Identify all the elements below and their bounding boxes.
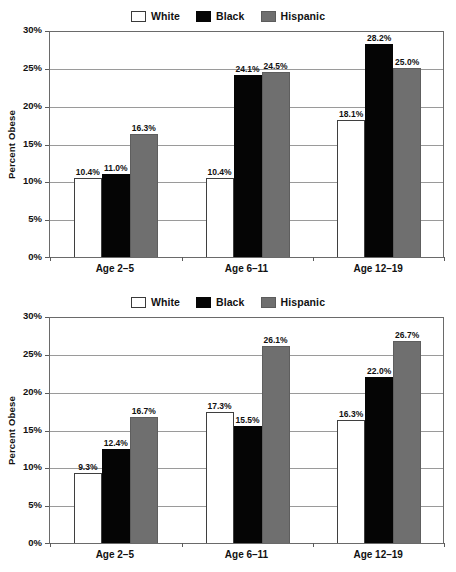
y-axis-tick-mark bbox=[45, 220, 49, 221]
legend-swatch-icon bbox=[196, 297, 211, 308]
bar: 25.0% bbox=[393, 68, 421, 257]
y-axis-tick-mark bbox=[45, 69, 49, 70]
bar: 26.1% bbox=[262, 346, 290, 543]
plot-area: 9.3%12.4%16.7%17.3%15.5%26.1%16.3%22.0%2… bbox=[49, 317, 444, 544]
bar-value-label: 10.4% bbox=[76, 168, 100, 177]
y-axis-tick-mark bbox=[45, 317, 49, 318]
legend-label: Black bbox=[216, 297, 245, 308]
y-axis-tick-label: 30% bbox=[2, 25, 42, 35]
x-axis-category-label: Age 12–19 bbox=[312, 263, 444, 274]
y-axis-tick-label: 0% bbox=[2, 252, 42, 262]
bar-value-label: 25.0% bbox=[395, 58, 419, 67]
y-axis-tick-mark bbox=[45, 543, 49, 544]
gridline bbox=[50, 355, 443, 356]
x-axis-tick-mark bbox=[50, 543, 51, 547]
y-axis-tick-mark bbox=[45, 506, 49, 507]
legend-item-white[interactable]: White bbox=[131, 11, 180, 22]
bar: 10.4% bbox=[74, 178, 102, 257]
bar: 22.0% bbox=[365, 377, 393, 543]
legend-label: White bbox=[151, 297, 180, 308]
bar-value-label: 10.4% bbox=[207, 168, 231, 177]
bar-value-label: 16.3% bbox=[339, 410, 363, 419]
bar: 16.3% bbox=[337, 420, 365, 543]
y-axis-tick-mark bbox=[45, 355, 49, 356]
legend-swatch-icon bbox=[261, 11, 276, 22]
bar-value-label: 24.5% bbox=[263, 62, 287, 71]
legend-swatch-icon bbox=[261, 297, 276, 308]
x-axis-category-label: Age 6–11 bbox=[181, 549, 313, 560]
y-axis-tick-label: 20% bbox=[2, 101, 42, 111]
chart-legend: WhiteBlackHispanic bbox=[0, 9, 456, 23]
legend-label: Hispanic bbox=[281, 297, 326, 308]
bar-value-label: 26.7% bbox=[395, 331, 419, 340]
legend-item-hispanic[interactable]: Hispanic bbox=[261, 11, 326, 22]
chart-top: WhiteBlackHispanicPercent Obese10.4%11.0… bbox=[0, 0, 456, 286]
x-axis-tick-mark bbox=[313, 543, 314, 547]
chart-legend: WhiteBlackHispanic bbox=[0, 295, 456, 309]
bar: 17.3% bbox=[206, 412, 234, 543]
y-axis-tick-label: 5% bbox=[2, 500, 42, 510]
legend-item-white[interactable]: White bbox=[131, 297, 180, 308]
y-axis-tick-mark bbox=[45, 431, 49, 432]
legend-label: Black bbox=[216, 11, 245, 22]
x-axis-category-label: Age 2–5 bbox=[49, 263, 181, 274]
x-axis-tick-mark bbox=[182, 257, 183, 261]
x-axis-tick-mark bbox=[182, 543, 183, 547]
x-axis-category-label: Age 6–11 bbox=[181, 263, 313, 274]
bar-value-label: 24.1% bbox=[235, 65, 259, 74]
bar: 28.2% bbox=[365, 44, 393, 257]
legend-swatch-icon bbox=[196, 11, 211, 22]
y-axis-tick-label: 30% bbox=[2, 311, 42, 321]
chart-bottom: WhiteBlackHispanicPercent Obese9.3%12.4%… bbox=[0, 286, 456, 572]
x-axis-tick-mark bbox=[444, 543, 445, 547]
bar: 26.7% bbox=[393, 341, 421, 543]
y-axis-tick-label: 25% bbox=[2, 63, 42, 73]
plot-area: 10.4%11.0%16.3%10.4%24.1%24.5%18.1%28.2%… bbox=[49, 31, 444, 258]
y-axis-tick-label: 0% bbox=[2, 538, 42, 548]
bar-value-label: 15.5% bbox=[235, 416, 259, 425]
bar: 9.3% bbox=[74, 473, 102, 543]
bar-value-label: 9.3% bbox=[78, 463, 97, 472]
legend-label: Hispanic bbox=[281, 11, 326, 22]
bar-value-label: 22.0% bbox=[367, 367, 391, 376]
legend-item-black[interactable]: Black bbox=[196, 297, 245, 308]
bar-value-label: 11.0% bbox=[104, 164, 128, 173]
bar: 16.7% bbox=[130, 417, 158, 543]
y-axis-tick-mark bbox=[45, 31, 49, 32]
x-axis-tick-mark bbox=[50, 257, 51, 261]
chart-page: WhiteBlackHispanicPercent Obese10.4%11.0… bbox=[0, 0, 456, 572]
legend-label: White bbox=[151, 11, 180, 22]
y-axis-tick-label: 15% bbox=[2, 139, 42, 149]
y-axis-tick-mark bbox=[45, 393, 49, 394]
legend-item-black[interactable]: Black bbox=[196, 11, 245, 22]
y-axis-tick-label: 10% bbox=[2, 462, 42, 472]
y-axis-tick-mark bbox=[45, 257, 49, 258]
legend-swatch-icon bbox=[131, 297, 146, 308]
bar-value-label: 28.2% bbox=[367, 34, 391, 43]
y-axis-tick-label: 10% bbox=[2, 176, 42, 186]
y-axis-tick-mark bbox=[45, 182, 49, 183]
bar: 24.5% bbox=[262, 72, 290, 257]
bar-value-label: 26.1% bbox=[263, 336, 287, 345]
y-axis-tick-label: 20% bbox=[2, 387, 42, 397]
bar-value-label: 16.7% bbox=[132, 407, 156, 416]
y-axis-tick-mark bbox=[45, 145, 49, 146]
y-axis-tick-label: 5% bbox=[2, 214, 42, 224]
x-axis-tick-mark bbox=[313, 257, 314, 261]
bar: 15.5% bbox=[234, 426, 262, 543]
bar: 11.0% bbox=[102, 174, 130, 257]
bar: 10.4% bbox=[206, 178, 234, 257]
legend-item-hispanic[interactable]: Hispanic bbox=[261, 297, 326, 308]
y-axis-tick-mark bbox=[45, 468, 49, 469]
x-axis-tick-mark bbox=[444, 257, 445, 261]
bar: 16.3% bbox=[130, 134, 158, 257]
y-axis-tick-mark bbox=[45, 107, 49, 108]
legend-swatch-icon bbox=[131, 11, 146, 22]
bar: 12.4% bbox=[102, 449, 130, 543]
bar-value-label: 12.4% bbox=[104, 439, 128, 448]
x-axis-category-label: Age 12–19 bbox=[312, 549, 444, 560]
bar-value-label: 17.3% bbox=[207, 402, 231, 411]
bar-value-label: 18.1% bbox=[339, 110, 363, 119]
bar: 18.1% bbox=[337, 120, 365, 257]
y-axis-tick-label: 25% bbox=[2, 349, 42, 359]
